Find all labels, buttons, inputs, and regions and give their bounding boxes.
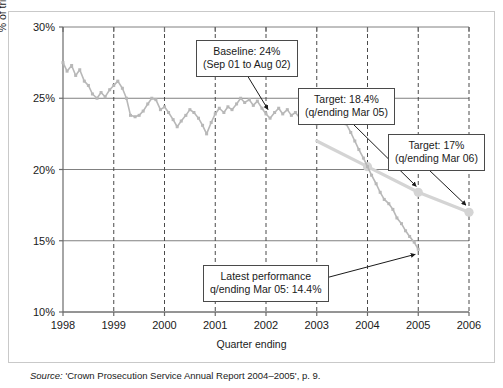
x-axis-title: Quarter ending <box>0 338 503 350</box>
svg-text:2001: 2001 <box>203 319 227 331</box>
svg-text:2002: 2002 <box>254 319 278 331</box>
svg-text:20%: 20% <box>33 164 55 176</box>
callout-target05-line1: Target: 18.4% <box>305 93 388 106</box>
source-caption: Source: 'Crown Prosecution Service Annua… <box>30 370 320 381</box>
callout-target-mar-05: Target: 18.4% (q/ending Mar 05) <box>298 88 395 125</box>
y-tick-labels: 30%25%20%15%10% <box>33 21 55 318</box>
source-text: 'Crown Prosecution Service Annual Report… <box>65 370 320 381</box>
svg-text:1998: 1998 <box>51 319 75 331</box>
svg-text:30%: 30% <box>33 21 55 33</box>
callout-latest-performance: Latest performance q/ending Mar 05: 14.4… <box>203 265 329 302</box>
callout-target05-line2: (q/ending Mar 05) <box>305 106 388 119</box>
callout-latest-line1: Latest performance <box>210 270 322 283</box>
callout-baseline: Baseline: 24% (Sep 01 to Aug 02) <box>196 40 298 77</box>
chart-page: 30%25%20%15%10% 199819992000200120022003… <box>0 0 503 388</box>
callout-target-mar-06: Target: 17% (q/ending Mar 06) <box>388 134 485 171</box>
svg-text:2006: 2006 <box>457 319 481 331</box>
svg-text:2005: 2005 <box>406 319 430 331</box>
callout-latest-line2: q/ending Mar 05: 14.4% <box>210 283 322 296</box>
callout-target06-line2: (q/ending Mar 06) <box>395 152 478 165</box>
svg-text:10%: 10% <box>33 306 55 318</box>
svg-text:15%: 15% <box>33 235 55 247</box>
svg-text:2000: 2000 <box>152 319 176 331</box>
x-tick-labels: 199819992000200120022003200420052006 <box>51 319 481 331</box>
callout-target06-line1: Target: 17% <box>395 139 478 152</box>
svg-text:2003: 2003 <box>305 319 329 331</box>
svg-text:1999: 1999 <box>102 319 126 331</box>
callout-baseline-line1: Baseline: 24% <box>203 45 291 58</box>
source-prefix: Source: <box>30 370 63 381</box>
y-axis-title: % of trials that are ineffective <box>0 0 8 70</box>
svg-text:2004: 2004 <box>355 319 379 331</box>
callout-baseline-line2: (Sep 01 to Aug 02) <box>203 58 291 71</box>
svg-text:25%: 25% <box>33 92 55 104</box>
